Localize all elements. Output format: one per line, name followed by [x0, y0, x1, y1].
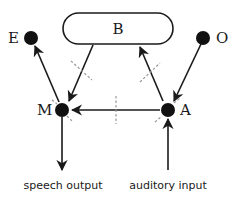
node-m-label: M	[37, 101, 52, 119]
node-o: O	[196, 29, 228, 47]
diagram-canvas: B E O M A	[0, 0, 239, 202]
edge-b-to-m	[69, 45, 93, 101]
box-b-label: B	[112, 20, 123, 38]
edge-m-to-e	[35, 46, 59, 102]
lesion-mark-m-1	[52, 100, 57, 104]
lesion-mark-a-b	[140, 63, 160, 82]
node-o-label: O	[216, 29, 228, 47]
edge-a-to-b	[140, 47, 163, 101]
node-a-label: A	[179, 101, 191, 119]
node-m: M	[37, 101, 69, 119]
node-e-label: E	[8, 29, 19, 47]
box-b: B	[63, 13, 173, 44]
speech-output-label: speech output	[23, 179, 103, 192]
auditory-input-label: auditory input	[129, 179, 207, 192]
lesion-mark-a-2	[155, 116, 162, 122]
node-a: A	[161, 101, 191, 119]
edge-o-to-a	[174, 44, 201, 101]
node-e: E	[8, 29, 38, 47]
lesion-marks	[52, 61, 180, 124]
lesion-mark-m-2	[67, 116, 73, 122]
lesion-mark-b-m	[71, 61, 92, 80]
